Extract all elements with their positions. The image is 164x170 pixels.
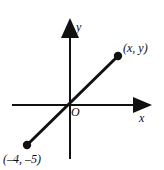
line-segment [27, 56, 118, 145]
y-axis-label: y [76, 21, 81, 33]
upper-endpoint-dot [114, 52, 122, 60]
upper-endpoint-label: (x, y) [123, 42, 148, 54]
coordinate-plane-figure: (x, y) (–4, –5) O x y [0, 0, 164, 170]
origin-label: O [71, 106, 80, 118]
lower-endpoint-dot [23, 141, 31, 149]
coordinate-plane-canvas [0, 0, 164, 170]
lower-endpoint-label: (–4, –5) [3, 153, 41, 165]
x-axis-label: x [139, 112, 144, 124]
